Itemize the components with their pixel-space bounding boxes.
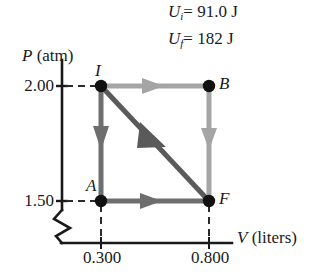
y-axis-break-zigzag [54, 210, 70, 243]
arrowhead-I-to-A [93, 126, 109, 150]
arrowhead-A-to-F [140, 193, 162, 209]
data-point-F [203, 195, 215, 207]
pv-diagram-canvas [0, 0, 318, 275]
arrowhead-I-to-B [142, 78, 164, 94]
data-point-B [203, 80, 215, 92]
data-point-I [95, 80, 107, 92]
arrowhead-B-to-F [201, 128, 217, 150]
arrowhead-I-to-F [137, 122, 166, 148]
data-point-A [95, 195, 107, 207]
